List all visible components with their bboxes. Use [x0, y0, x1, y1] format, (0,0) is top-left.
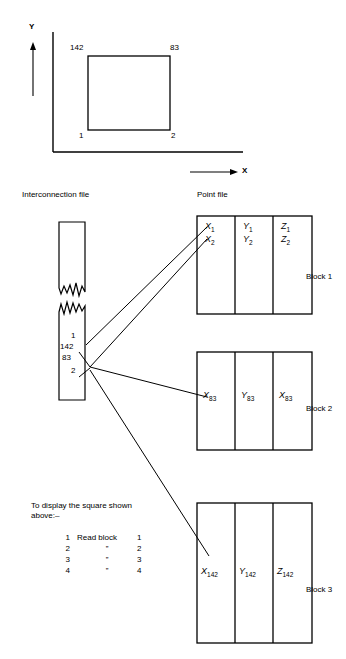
y-direction-arrow-head [30, 42, 36, 50]
interconnection-entry-3: 2 [71, 366, 75, 375]
square-corner-label-bottom-right: 2 [171, 131, 175, 140]
instruction-list: 1 Read block 1 2 ” 2 3 ” 3 4 ” 4 [56, 533, 151, 577]
point-file-header: Point file [197, 190, 228, 199]
interconnection-entry-1: 142 [60, 342, 73, 351]
connector-entry-142 [90, 239, 207, 367]
square-corner-label-top-left: 142 [70, 43, 83, 52]
block-2-row-0-y-subscript: 83 [247, 395, 254, 402]
square-corner-label-bottom-left: 1 [79, 131, 83, 140]
block-2-name-label: Block 2 [306, 404, 332, 413]
block-1-row-1-x-cell: X2 [205, 234, 215, 246]
block-1-row-0-z-subscript: 1 [287, 226, 291, 233]
instruction-caption-line-2: above:– [31, 511, 59, 520]
x-direction-arrow-head [230, 169, 238, 175]
instruction-row-3-operand: 4 [137, 566, 151, 575]
connector-entry-83 [90, 367, 207, 397]
instruction-row-2-operand: 3 [137, 555, 151, 564]
block-2-row-0-z-cell: X83 [279, 390, 292, 402]
instruction-row-1-operand: 2 [137, 544, 151, 553]
block-1-row-0-z-cell: Z1 [281, 221, 290, 233]
instruction-row-3-index: 4 [56, 566, 70, 575]
block-1-row-0-x-cell: X1 [205, 221, 215, 233]
block-1-name-label: Block 1 [306, 272, 332, 281]
square-corner-label-top-right: 83 [170, 43, 179, 52]
block-3-row-0-y-cell: Y142 [239, 566, 256, 578]
block-1-row-0-x-subscript: 1 [211, 226, 215, 233]
instruction-row: 2 ” 2 [56, 544, 151, 555]
instruction-row: 4 ” 4 [56, 566, 151, 577]
block-2-row-0-y-cell: Y83 [241, 390, 254, 402]
connector-entry-1 [86, 227, 207, 345]
square-shape [88, 56, 170, 130]
instruction-caption-line-1: To display the square shown [31, 501, 132, 510]
block-1-row-1-y-cell: Y2 [243, 234, 253, 246]
interconnection-entry-2: 83 [62, 353, 71, 362]
block-3-name-label: Block 3 [306, 585, 332, 594]
block-3-row-0-z-subscript: 142 [283, 571, 294, 578]
technical-diagram-canvas [0, 0, 346, 659]
block-3-row-0-x-cell: X142 [201, 566, 218, 578]
block-1-row-1-y-subscript: 2 [249, 239, 253, 246]
block-1-row-0-y-subscript: 1 [249, 226, 253, 233]
instruction-row-0-action: Read block [70, 533, 137, 542]
instruction-row-2-index: 3 [56, 555, 70, 564]
block-2-row-0-x-cell: X83 [203, 390, 216, 402]
instruction-row-0-index: 1 [56, 533, 70, 542]
block-3-row-0-y-subscript: 142 [245, 571, 256, 578]
y-axis-label: Y [29, 22, 34, 31]
block-1-row-1-z-cell: Z2 [281, 234, 290, 246]
block-2-row-0-x-subscript: 83 [209, 395, 216, 402]
block-3-row-0-x-subscript: 142 [207, 571, 218, 578]
instruction-row-1-action: ” [70, 544, 137, 553]
coordinate-axes [30, 32, 243, 175]
instruction-row: 3 ” 3 [56, 555, 151, 566]
block-1-row-0-y-cell: Y1 [243, 221, 253, 233]
instruction-row-3-action: ” [70, 566, 137, 575]
block-2-row-0-z-subscript: 83 [285, 395, 292, 402]
instruction-row-2-action: ” [70, 555, 137, 564]
block-1-row-1-z-subscript: 2 [287, 239, 291, 246]
instruction-row: 1 Read block 1 [56, 533, 151, 544]
interconnection-entry-0: 1 [71, 331, 75, 340]
instruction-row-0-operand: 1 [137, 533, 151, 542]
connector-entry-2 [90, 370, 209, 556]
instruction-row-1-index: 2 [56, 544, 70, 553]
interconnection-box-1 [59, 222, 85, 296]
x-axis-label: X [242, 166, 247, 175]
interconnection-file-header: Interconnection file [22, 190, 89, 199]
block-3-row-0-z-cell: Z142 [277, 566, 293, 578]
block-1-row-1-x-subscript: 2 [211, 239, 215, 246]
